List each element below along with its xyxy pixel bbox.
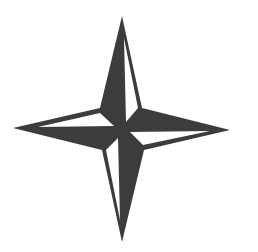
compass-star-canvas: [0, 0, 258, 252]
bottom-arm-light-facet: [106, 138, 120, 220]
compass-star-icon: [0, 0, 258, 252]
star-outline: [13, 16, 230, 242]
